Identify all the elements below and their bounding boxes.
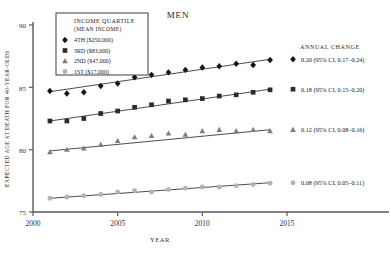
data-point [217,94,222,99]
data-point [268,181,273,186]
annual-change-header: ANNUAL CHANGE [300,43,360,50]
data-point [81,193,86,198]
data-point [98,111,103,116]
legend: INCOME QUARTILE(MEAN INCOME)4TH ($250,00… [56,13,148,76]
data-point [233,128,239,133]
data-point [216,127,222,132]
data-point [234,183,239,188]
data-point [183,132,189,137]
x-tick-label: 2005 [110,219,125,228]
data-point [98,142,104,147]
y-tick-label: 75 [19,209,27,217]
data-point [64,90,70,96]
data-point [200,96,205,101]
data-point [217,185,222,190]
legend-title-line1: INCOME QUARTILE [74,18,135,24]
annotation-marker [291,180,296,185]
annual-change-value: 0.18 (95% CI, 0.15–0.20) [301,86,364,94]
data-point [166,99,171,104]
legend-title-line2: (MEAN INCOME) [74,26,122,33]
legend-marker [63,69,68,74]
x-tick-label: 2015 [280,219,295,228]
data-point [115,138,121,143]
annotation-marker [291,87,296,92]
data-point [234,92,239,97]
series-group: 0.12 (95% CI, 0.08–0.16) [47,126,364,154]
data-point [251,90,256,95]
data-point [216,63,222,69]
annotation-marker [290,127,296,132]
data-point [115,190,120,195]
y-tick-label: 85 [19,85,27,93]
data-point [149,102,154,107]
plot-title: MEN [167,10,189,20]
y-tick-label: 80 [19,147,27,155]
x-axis-title: YEAR [150,236,170,243]
legend-marker [63,48,68,53]
data-point [64,195,69,200]
data-point [132,134,138,139]
data-point [166,130,172,135]
y-tick-label: 90 [19,22,27,30]
legend-label: 2ND ($47,000) [74,58,111,65]
data-point [149,190,154,195]
data-point [98,192,103,197]
data-point [47,149,53,154]
series-group: 0.08 (95% CI, 0.05–0.11) [47,179,364,200]
data-point [81,89,87,95]
data-point [166,187,171,192]
data-point [267,128,273,133]
data-point [267,57,273,63]
x-tick-label: 2000 [26,219,41,228]
chart-figure: 758085902000200520102015YEAREXPECTED AGE… [0,0,391,255]
legend-label: 4TH ($250,000) [74,37,113,44]
data-point [47,88,53,94]
data-point [81,116,86,121]
data-point [149,133,155,138]
series-group: 0.18 (95% CI, 0.15–0.20) [48,86,365,124]
x-tick-label: 2010 [195,219,210,228]
data-point [65,119,70,124]
data-point [250,127,256,132]
annotation-marker [290,56,296,62]
data-point [48,119,53,124]
data-point [268,87,273,92]
data-point [200,185,205,190]
y-axis-title: EXPECTED AGE AT DEATH FOR 40-YEAR-OLDS [4,50,10,187]
data-point [183,97,188,102]
data-point [183,186,188,191]
data-point [250,62,256,68]
data-point [132,105,137,110]
data-point [251,182,256,187]
annual-change-value: 0.20 (95% CI, 0.17–0.24) [301,56,364,64]
legend-label: 1ST ($17,000) [74,69,109,76]
data-point [233,60,239,66]
data-point [132,188,137,193]
data-point [47,196,52,201]
scatter-plot-svg: 758085902000200520102015YEAREXPECTED AGE… [0,0,391,255]
annual-change-value: 0.08 (95% CI, 0.05–0.11) [301,179,364,187]
data-point [199,128,205,133]
legend-label: 3RD ($83,000) [74,48,110,55]
annual-change-value: 0.12 (95% CI, 0.08–0.16) [301,126,364,134]
data-point [115,109,120,114]
